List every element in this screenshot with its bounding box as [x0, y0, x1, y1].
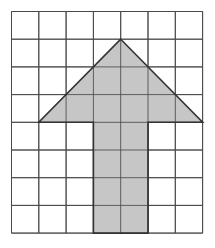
grid-arrow-figure	[0, 0, 215, 248]
